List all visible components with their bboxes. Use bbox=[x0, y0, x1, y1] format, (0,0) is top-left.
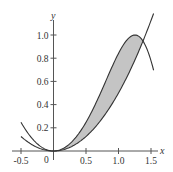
y-axis-label: y bbox=[50, 10, 56, 21]
plot-area: -0.50.51.01.5 0.20.40.60.81.0 x y 0 bbox=[0, 0, 173, 172]
x-axis-label: x bbox=[159, 145, 165, 156]
origin-label: 0 bbox=[44, 155, 49, 165]
y-tick-label: 0.4 bbox=[37, 100, 49, 110]
y-tick-label: 0.2 bbox=[37, 123, 49, 133]
y-tick-label: 1.0 bbox=[37, 31, 49, 41]
x-tick-label: 0.5 bbox=[80, 156, 92, 166]
x-tick-label: 1.5 bbox=[145, 156, 157, 166]
x-tick-label: -0.5 bbox=[13, 156, 28, 166]
chart: -0.50.51.01.5 0.20.40.60.81.0 x y 0 bbox=[0, 0, 173, 172]
shaded-region bbox=[54, 35, 144, 151]
x-tick-label: 1.0 bbox=[113, 156, 125, 166]
y-tick-label: 0.8 bbox=[37, 54, 49, 64]
y-tick-label: 0.6 bbox=[37, 77, 49, 87]
